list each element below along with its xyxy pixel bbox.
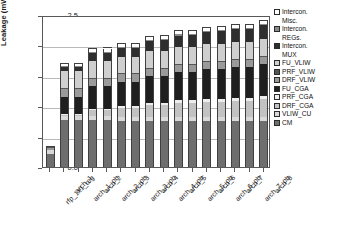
bar-segment: [145, 69, 154, 76]
legend-item: CM: [274, 119, 352, 128]
x-tick-mark: [220, 168, 221, 172]
bar-segment: [174, 103, 183, 117]
bar-segment: [259, 64, 268, 96]
bar-segment: [231, 42, 240, 59]
bar-stack: [259, 20, 268, 167]
bar-segment: [160, 76, 169, 103]
x-tick-mark: [106, 168, 107, 172]
legend-item: VLIW_CU: [274, 110, 352, 119]
chart-figure: Leakage (mW) 0.00.51.01.52.02.5 rfp_1x1_…: [0, 0, 352, 229]
bar-segment: [188, 72, 197, 101]
bar-segment: [160, 40, 169, 51]
bar-segment: [202, 102, 211, 117]
bar-stack: [202, 27, 211, 167]
legend-label: FU_VLIW: [282, 59, 311, 68]
legend-swatch: [274, 94, 280, 100]
bar-segment: [103, 79, 112, 86]
bar-stack: [74, 63, 83, 167]
bar-segment: [60, 120, 69, 167]
bar-stack: [103, 47, 112, 167]
bar-segment: [117, 74, 126, 81]
bar-stack: [188, 30, 197, 167]
bar-segment: [145, 105, 154, 117]
x-tick-label: arch_7: [245, 174, 265, 194]
bar-segment: [160, 121, 169, 167]
x-tick-mark: [206, 168, 207, 172]
legend-label: CM: [282, 119, 292, 128]
x-tick-mark: [263, 168, 264, 172]
bar-stack: [145, 36, 154, 167]
legend-swatch: [274, 69, 280, 75]
bar-segment: [245, 121, 254, 167]
legend-swatch: [274, 60, 280, 66]
x-tick-mark: [49, 168, 50, 172]
bar-segment: [145, 51, 154, 68]
bar-segment: [103, 53, 112, 61]
bar-segment: [174, 72, 183, 101]
bar-segment: [188, 47, 197, 64]
bar-segment: [145, 121, 154, 167]
bar-segment: [131, 121, 140, 167]
x-tick-mark: [249, 168, 250, 172]
bar-segment: [103, 86, 112, 108]
bar-segment: [259, 39, 268, 56]
y-tick-mark: [38, 168, 42, 169]
legend-item: DRF_CGA: [274, 102, 352, 111]
plot-area: [42, 16, 270, 168]
x-tick-mark: [92, 168, 93, 172]
bar-segment: [131, 48, 140, 57]
legend-swatch: [274, 111, 280, 117]
bar-segment: [117, 82, 126, 107]
y-axis-label: Leakage (mW): [0, 0, 8, 60]
bar-segment: [103, 120, 112, 167]
bar-segment: [60, 89, 69, 96]
bar-segment: [245, 42, 254, 59]
bar-segment: [231, 101, 240, 118]
x-tick-mark: [192, 168, 193, 172]
bar-stack: [174, 30, 183, 167]
bar-segment: [160, 105, 169, 117]
legend-swatch: [274, 43, 280, 49]
bar-segment: [217, 62, 226, 69]
bar-segment: [103, 61, 112, 78]
x-tick-mark: [78, 168, 79, 172]
bar-segment: [74, 89, 83, 96]
legend-item: DRF_VLIW: [274, 76, 352, 85]
legend-item: Intercon.MUX: [274, 42, 352, 59]
bar-segment: [188, 103, 197, 117]
bar-segment: [217, 69, 226, 99]
bar-stack: [131, 43, 140, 167]
bar-segment: [245, 67, 254, 98]
bar-segment: [174, 121, 183, 167]
chart-legend: Intercon.Misc.Intercon.REGs.Intercon.MUX…: [274, 8, 352, 127]
bar-segment: [231, 67, 240, 98]
bar-segment: [160, 51, 169, 68]
bar-segment: [259, 25, 268, 39]
bar-segment: [117, 48, 126, 56]
bar-segment: [188, 65, 197, 72]
bar-series-container: [43, 17, 269, 167]
legend-label: Intercon.Misc.: [282, 8, 308, 25]
legend-label: DRF_VLIW: [282, 76, 315, 85]
x-tick-label: arch_1: [74, 174, 94, 194]
legend-swatch: [274, 26, 280, 32]
bar-stack: [217, 26, 226, 167]
bar-segment: [217, 102, 226, 117]
bar-segment: [259, 57, 268, 64]
x-tick-mark: [120, 168, 121, 172]
bar-segment: [259, 99, 268, 117]
legend-label: Intercon.REGs.: [282, 25, 308, 42]
legend-label: PRF_VLIW: [282, 68, 315, 77]
legend-swatch: [274, 77, 280, 83]
legend-item: Intercon.Misc.: [274, 8, 352, 25]
x-tick-mark: [163, 168, 164, 172]
x-tick-label: arch_3: [131, 174, 151, 194]
legend-swatch: [274, 9, 280, 15]
bar-segment: [117, 108, 126, 117]
legend-item: PRF_VLIW: [274, 68, 352, 77]
bar-stack: [245, 24, 254, 167]
bar-segment: [231, 29, 240, 42]
bar-stack: [160, 35, 169, 167]
bar-segment: [88, 120, 97, 167]
bar-segment: [160, 69, 169, 76]
